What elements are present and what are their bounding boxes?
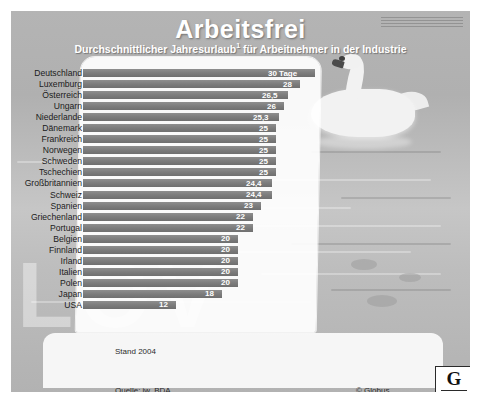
chart-row: Japan18 xyxy=(11,289,470,300)
bar-value-label: 26 xyxy=(267,102,276,111)
bar xyxy=(83,80,300,88)
category-label: Griechenland xyxy=(11,212,82,222)
bar-track: 20 xyxy=(83,279,315,287)
bar xyxy=(83,268,238,276)
bar xyxy=(83,113,279,121)
chart-row: Dänemark25 xyxy=(11,123,470,134)
chart-row: Luxemburg28 xyxy=(11,79,470,90)
bar-value-label: 12 xyxy=(159,300,168,309)
chart-row: Tschechien25 xyxy=(11,167,470,178)
chart-row: Italien20 xyxy=(11,267,470,278)
subtitle-text-tail: für Arbeitnehmer in der Industrie xyxy=(240,43,406,55)
bar-value-label: 24,4 xyxy=(246,190,262,199)
category-label: Belgien xyxy=(11,234,82,244)
category-label: Norwegen xyxy=(11,145,82,155)
footer-panel xyxy=(43,333,443,388)
bar-track: 23 xyxy=(83,202,315,210)
bar-value-label: 28 xyxy=(283,80,292,89)
chart-row: Belgien20 xyxy=(11,234,470,245)
bar-track: 20 xyxy=(83,257,315,265)
globus-logo-letter: G xyxy=(436,368,470,391)
category-label: Japan xyxy=(11,289,82,299)
bar-value-label: 25 xyxy=(259,168,268,177)
bar-track: 25 xyxy=(83,135,315,143)
chart-row: Österreich26,5 xyxy=(11,90,470,101)
bar-track: 24,4 xyxy=(83,179,315,187)
chart-row: Frankreich25 xyxy=(11,134,470,145)
category-label: Großbritannien xyxy=(11,178,82,188)
bar xyxy=(83,257,238,265)
category-label: Niederlande xyxy=(11,112,82,122)
bar-track: 25,3 xyxy=(83,113,315,121)
bar-track: 26 xyxy=(83,102,315,110)
category-label: Deutschland xyxy=(11,68,82,78)
bar xyxy=(83,279,238,287)
category-label: Schweiz xyxy=(11,190,82,200)
category-label: Finnland xyxy=(11,245,82,255)
chart-row: Irland20 xyxy=(11,256,470,267)
bar xyxy=(83,168,276,176)
chart-row: Großbritannien24,4 xyxy=(11,178,470,189)
stand-label: Stand 2004 xyxy=(115,347,156,356)
chart-row: Niederlande25,3 xyxy=(11,112,470,123)
bar-track: 12 xyxy=(83,301,315,309)
bar-value-label: 22 xyxy=(236,212,245,221)
bar xyxy=(83,157,276,165)
bar-value-label: 26,5 xyxy=(262,91,278,100)
chart-row: Portugal22 xyxy=(11,223,470,234)
bar-value-label: 20 xyxy=(221,256,230,265)
chart-row: Polen20 xyxy=(11,278,470,289)
chart-row: Finnland20 xyxy=(11,245,470,256)
bar-track: 20 xyxy=(83,235,315,243)
copyright-label: © Globus xyxy=(356,386,389,392)
category-label: Portugal xyxy=(11,223,82,233)
chart-row: Deutschland30 Tage xyxy=(11,68,470,79)
category-label: Polen xyxy=(11,278,82,288)
bar xyxy=(83,290,222,298)
bar-value-label: 23 xyxy=(244,201,253,210)
bar-value-label: 20 xyxy=(221,278,230,287)
bar-track: 18 xyxy=(83,290,315,298)
bar-track: 28 xyxy=(83,80,315,88)
bar-value-label: 30 Tage xyxy=(268,69,297,78)
bar-value-label: 25 xyxy=(259,157,268,166)
subtitle-text: Durchschnittlicher Jahresurlaub xyxy=(74,43,236,55)
bar-track: 22 xyxy=(83,213,315,221)
globus-logo: G 9869 xyxy=(435,366,470,392)
bar xyxy=(83,246,238,254)
chart-row: Ungarn26 xyxy=(11,101,470,112)
category-label: Ungarn xyxy=(11,101,82,111)
category-label: Schweden xyxy=(11,156,82,166)
chart-row: Schweden25 xyxy=(11,156,470,167)
category-label: USA xyxy=(11,300,82,310)
infographic-poster: LOV Arbeitsfrei Durchschnittlicher Jahre… xyxy=(11,11,470,392)
bar-track: 26,5 xyxy=(83,91,315,99)
bar-value-label: 20 xyxy=(221,234,230,243)
category-label: Luxemburg xyxy=(11,79,82,89)
bar-track: 25 xyxy=(83,124,315,132)
chart-row: Norwegen25 xyxy=(11,145,470,156)
category-label: Irland xyxy=(11,256,82,266)
bar-track: 25 xyxy=(83,157,315,165)
bar-value-label: 22 xyxy=(236,223,245,232)
chart-row: Spanien23 xyxy=(11,201,470,212)
bar xyxy=(83,146,276,154)
bar xyxy=(83,202,261,210)
bar-value-label: 20 xyxy=(221,245,230,254)
bar xyxy=(83,135,276,143)
bar xyxy=(83,224,253,232)
poster-header: Arbeitsfrei Durchschnittlicher Jahresurl… xyxy=(11,11,470,59)
bar xyxy=(83,124,276,132)
category-label: Italien xyxy=(11,267,82,277)
chart-row: Schweiz24,4 xyxy=(11,190,470,201)
corner-fineprint xyxy=(381,17,463,33)
bar-value-label: 24,4 xyxy=(246,179,262,188)
bar xyxy=(83,191,272,199)
chart-row: Griechenland22 xyxy=(11,212,470,223)
category-label: Dänemark xyxy=(11,123,82,133)
source-label: Quelle: iw, BDA xyxy=(115,386,171,392)
bar-track: 25 xyxy=(83,146,315,154)
bar-value-label: 25 xyxy=(259,146,268,155)
bar-track: 25 xyxy=(83,168,315,176)
bar-value-label: 25 xyxy=(259,124,268,133)
